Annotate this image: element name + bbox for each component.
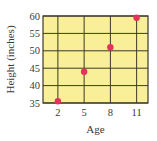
x-axis-ticks: 25811 — [55, 107, 141, 118]
x-tick-label: 5 — [82, 107, 87, 118]
plot-area — [43, 16, 148, 103]
data-point — [107, 44, 113, 50]
y-axis-ticks: 354045505560 — [30, 11, 41, 109]
y-tick-label: 35 — [30, 98, 41, 109]
x-axis-label: Age — [86, 123, 104, 135]
scatter-chart: 354045505560 25811 Age Height (inches) — [0, 0, 157, 141]
x-tick-label: 2 — [55, 107, 60, 118]
y-axis-label: Height (inches) — [4, 25, 17, 93]
x-tick-label: 11 — [132, 107, 142, 118]
y-tick-label: 60 — [30, 11, 41, 22]
data-point — [133, 15, 139, 21]
y-tick-label: 50 — [30, 45, 41, 56]
y-tick-label: 45 — [30, 63, 41, 74]
data-point — [55, 98, 61, 104]
y-tick-label: 40 — [30, 80, 41, 91]
x-tick-label: 8 — [108, 107, 113, 118]
data-point — [81, 68, 87, 74]
y-tick-label: 55 — [30, 28, 41, 39]
